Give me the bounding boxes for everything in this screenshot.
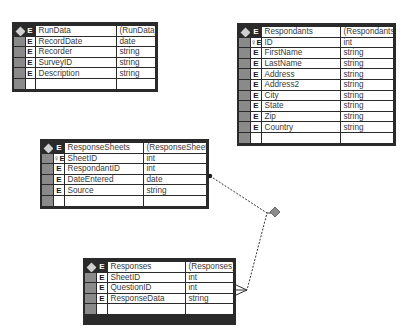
relationship-line[interactable] — [210, 176, 267, 290]
relationship-responsesheets-responses[interactable] — [208, 174, 280, 295]
relationship-layer — [0, 0, 410, 333]
relationship-diamond-icon[interactable] — [270, 207, 280, 217]
